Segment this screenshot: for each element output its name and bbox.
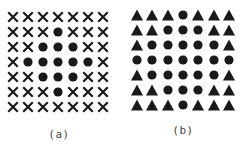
filled-circle-icon xyxy=(51,25,65,39)
filled-triangle-icon xyxy=(207,8,221,22)
filled-circle-icon xyxy=(207,38,221,52)
cross-icon xyxy=(6,25,20,39)
cross-icon xyxy=(6,70,20,84)
cross-icon xyxy=(6,40,20,54)
filled-circle-icon xyxy=(51,40,65,54)
filled-circle-icon xyxy=(81,55,95,69)
cross-icon xyxy=(81,70,95,84)
filled-triangle-icon xyxy=(145,83,159,97)
filled-circle-icon xyxy=(176,8,190,22)
filled-triangle-icon xyxy=(222,38,236,52)
filled-triangle-icon xyxy=(161,98,175,112)
filled-circle-icon xyxy=(130,53,144,67)
cross-icon xyxy=(96,25,110,39)
cross-icon xyxy=(96,10,110,24)
cross-icon xyxy=(81,25,95,39)
filled-circle-icon xyxy=(191,38,205,52)
filled-circle-icon xyxy=(66,40,80,54)
cross-icon xyxy=(66,25,80,39)
filled-circle-icon xyxy=(176,83,190,97)
cross-icon xyxy=(6,10,20,24)
cross-icon xyxy=(51,100,65,114)
filled-circle-icon xyxy=(36,40,50,54)
filled-triangle-icon xyxy=(145,98,159,112)
filled-circle-icon xyxy=(145,68,159,82)
cross-icon xyxy=(81,85,95,99)
cross-icon xyxy=(21,25,35,39)
filled-circle-icon xyxy=(36,55,50,69)
cross-icon xyxy=(96,55,110,69)
cross-icon xyxy=(6,85,20,99)
filled-circle-icon xyxy=(207,53,221,67)
filled-triangle-icon xyxy=(207,98,221,112)
filled-triangle-icon xyxy=(145,23,159,37)
filled-triangle-icon xyxy=(130,8,144,22)
cross-icon xyxy=(6,100,20,114)
filled-triangle-icon xyxy=(222,23,236,37)
filled-circle-icon xyxy=(207,68,221,82)
cross-icon xyxy=(96,100,110,114)
filled-triangle-icon xyxy=(191,98,205,112)
filled-triangle-icon xyxy=(222,98,236,112)
cross-icon xyxy=(36,85,50,99)
cross-icon xyxy=(51,10,65,24)
cross-icon xyxy=(81,10,95,24)
cross-icon xyxy=(81,100,95,114)
cross-icon xyxy=(21,10,35,24)
filled-circle-icon xyxy=(191,23,205,37)
filled-circle-icon xyxy=(161,68,175,82)
cross-icon xyxy=(36,100,50,114)
filled-circle-icon xyxy=(21,55,35,69)
filled-circle-icon xyxy=(191,83,205,97)
filled-triangle-icon xyxy=(207,23,221,37)
filled-triangle-icon xyxy=(222,83,236,97)
filled-triangle-icon xyxy=(130,98,144,112)
cross-icon xyxy=(21,85,35,99)
filled-triangle-icon xyxy=(130,23,144,37)
cross-icon xyxy=(66,10,80,24)
filled-circle-icon xyxy=(161,23,175,37)
filled-circle-icon xyxy=(66,70,80,84)
cross-icon xyxy=(96,85,110,99)
caption-b: (b) xyxy=(172,124,193,137)
cross-icon xyxy=(21,40,35,54)
filled-triangle-icon xyxy=(145,8,159,22)
filled-triangle-icon xyxy=(130,68,144,82)
filled-circle-icon xyxy=(51,85,65,99)
cross-icon xyxy=(96,70,110,84)
filled-triangle-icon xyxy=(130,38,144,52)
cross-icon xyxy=(81,40,95,54)
filled-circle-icon xyxy=(176,53,190,67)
cross-icon xyxy=(21,70,35,84)
filled-circle-icon xyxy=(51,70,65,84)
filled-triangle-icon xyxy=(207,83,221,97)
filled-circle-icon xyxy=(161,38,175,52)
filled-circle-icon xyxy=(176,23,190,37)
filled-circle-icon xyxy=(161,83,175,97)
filled-circle-icon xyxy=(145,53,159,67)
cross-icon xyxy=(66,85,80,99)
filled-circle-icon xyxy=(36,70,50,84)
filled-circle-icon xyxy=(176,98,190,112)
cross-icon xyxy=(36,25,50,39)
filled-circle-icon xyxy=(176,68,190,82)
cross-icon xyxy=(6,55,20,69)
filled-triangle-icon xyxy=(161,8,175,22)
filled-circle-icon xyxy=(191,53,205,67)
cross-icon xyxy=(36,10,50,24)
filled-circle-icon xyxy=(161,53,175,67)
filled-triangle-icon xyxy=(130,83,144,97)
cross-icon xyxy=(66,100,80,114)
cross-icon xyxy=(21,100,35,114)
filled-triangle-icon xyxy=(222,68,236,82)
filled-circle-icon xyxy=(66,55,80,69)
filled-circle-icon xyxy=(51,55,65,69)
filled-circle-icon xyxy=(191,68,205,82)
filled-triangle-icon xyxy=(191,8,205,22)
filled-circle-icon xyxy=(176,38,190,52)
filled-triangle-icon xyxy=(222,8,236,22)
caption-a: (a) xyxy=(48,128,69,141)
filled-circle-icon xyxy=(222,53,236,67)
filled-circle-icon xyxy=(145,38,159,52)
cross-icon xyxy=(96,40,110,54)
